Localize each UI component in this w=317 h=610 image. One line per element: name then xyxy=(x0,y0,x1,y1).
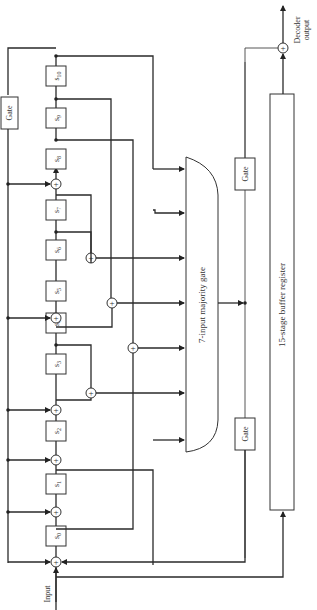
svg-text:+: + xyxy=(109,298,114,308)
svg-text:+: + xyxy=(280,43,285,53)
xor-icon: + xyxy=(86,388,96,398)
gate-top-label: Gate xyxy=(5,105,14,121)
stage-labels: s0 s1 s2 s3 s4 s5 s6 s7 s8 s9 s10 xyxy=(52,71,62,539)
xor-icon: + xyxy=(128,343,138,353)
output-label-1: Decoder xyxy=(293,16,302,43)
xor-icon: + xyxy=(51,455,61,465)
svg-text:+: + xyxy=(53,507,58,517)
svg-text:+: + xyxy=(53,405,58,415)
decoder-output: + Decoder output xyxy=(278,6,311,53)
majority-gate: 7-input majority gate xyxy=(186,157,218,452)
majority-output: Gate Gate xyxy=(62,48,282,562)
svg-text:+: + xyxy=(88,388,93,398)
gate-mid-top-label: Gate xyxy=(241,166,250,182)
svg-text:+: + xyxy=(53,179,58,189)
tap-wires xyxy=(54,54,153,565)
syndrome-decoder-diagram: s0 s1 s2 s3 s4 s5 s6 s7 s8 s9 s10 Gate +… xyxy=(0,0,317,610)
xor-icon: + xyxy=(51,557,61,567)
svg-text:+: + xyxy=(53,557,58,567)
xor-icon: + xyxy=(107,298,117,308)
output-label-2: output xyxy=(302,19,311,40)
svg-text:+: + xyxy=(53,455,58,465)
svg-text:+: + xyxy=(53,313,58,323)
input: Input xyxy=(43,568,56,610)
input-label: Input xyxy=(43,585,52,603)
xor-icon: + xyxy=(51,507,61,517)
buffer-label: 15-stage buffer register xyxy=(277,263,287,347)
xor-icon: + xyxy=(51,405,61,415)
xor-icon: + xyxy=(51,313,61,323)
svg-text:+: + xyxy=(130,343,135,353)
xor-icon: + xyxy=(51,179,61,189)
buffer-register: 15-stage buffer register xyxy=(56,54,294,577)
majority-gate-label: 7-input majority gate xyxy=(197,267,207,343)
gate-mid-bottom-label: Gate xyxy=(241,426,250,442)
